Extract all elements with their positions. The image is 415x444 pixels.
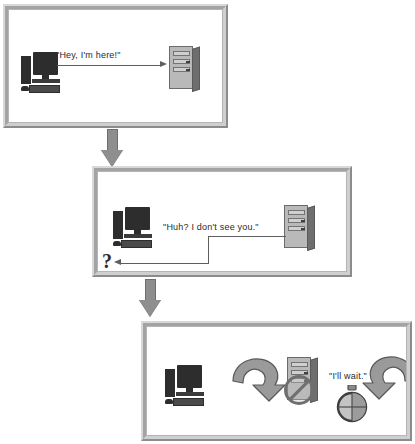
connector-arrow-1: [101, 129, 124, 167]
message-label-step-1: "Hey, I'm here!": [56, 50, 121, 60]
message-line-client-to-server: [57, 65, 161, 66]
arrow-head-down-icon: [101, 150, 123, 167]
server-side-panel-part: [307, 205, 315, 251]
computer-monitor-part: [33, 52, 58, 75]
server-led: [304, 372, 308, 374]
panel-face: "I'll wait.": [146, 326, 407, 436]
panel-face: ? "Huh? I don't see you.": [97, 171, 347, 272]
panel-face: "Hey, I'm here!": [8, 9, 223, 123]
connector-arrow-2: [139, 279, 162, 320]
retry-loop-arrow-right-icon: [357, 349, 407, 407]
prohibition-no-entry-icon: [284, 375, 314, 405]
panel-bevel: ? "Huh? I don't see you.": [94, 168, 350, 275]
question-mark-symbol: ?: [102, 251, 112, 271]
computer-monitor-part: [177, 365, 202, 388]
server-led: [301, 228, 305, 230]
computer-mouse-part: [113, 241, 121, 246]
computer-base-part: [124, 234, 152, 238]
reply-line-vertical: [208, 236, 209, 263]
server-led: [186, 61, 190, 63]
server-drive-bay: [173, 51, 190, 56]
panel-bevel: "Hey, I'm here!": [5, 6, 226, 126]
panel-step-2: ? "Huh? I don't see you.": [92, 166, 352, 277]
panel-bevel: "I'll wait.": [143, 323, 410, 439]
computer-keyboard-part: [29, 85, 60, 93]
arrowhead-left-icon: [114, 259, 121, 265]
panel-step-1: "Hey, I'm here!": [3, 4, 228, 128]
arrow-head-down-icon: [139, 300, 161, 317]
server-body-part: [284, 205, 308, 248]
arrow-shaft: [145, 279, 156, 301]
server-led: [301, 220, 305, 222]
computer-tower-part: [165, 369, 175, 397]
message-label-step-2: "Huh? I don't see you.": [163, 222, 259, 232]
arrow-shaft: [107, 129, 118, 151]
server-side-panel-part: [192, 46, 200, 92]
prohibition-slash: [288, 380, 310, 402]
reply-line-horizontal-upper: [208, 236, 286, 237]
computer-mouse-part: [21, 86, 29, 91]
reply-line-horizontal-lower: [120, 263, 209, 264]
server-body-part: [169, 46, 193, 89]
computer-tower-part: [113, 211, 123, 239]
computer-keyboard-part: [121, 240, 152, 248]
panel-step-3: "I'll wait.": [141, 321, 412, 441]
server-led: [186, 69, 190, 71]
computer-mouse-part: [165, 399, 173, 404]
computer-keyboard-part: [173, 398, 204, 406]
server-drive-bay: [288, 210, 305, 215]
computer-monitor-part: [125, 207, 150, 230]
retry-loop-arrow-left-icon: [229, 351, 291, 407]
diagram-canvas: "Hey, I'm here!": [0, 0, 415, 444]
computer-base-part: [32, 79, 60, 83]
arrowhead-right-icon: [160, 61, 167, 67]
server-drive-bay: [291, 362, 308, 367]
computer-base-part: [176, 392, 204, 396]
computer-tower-part: [21, 56, 31, 84]
